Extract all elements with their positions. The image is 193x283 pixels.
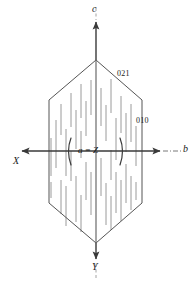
face-label-021: 021 — [117, 70, 130, 78]
axis-label-Y: Y — [92, 262, 98, 272]
crystal-striations — [51, 79, 136, 232]
axis-label-c: c — [92, 4, 96, 14]
face-label-010: 010 — [136, 117, 149, 125]
crystal-diagram-canvas — [0, 0, 193, 283]
center-label-a-equals-Z: a = Z — [78, 146, 98, 155]
crystal-diagram-figure: c Y X b 021 010 a = Z — [0, 0, 193, 283]
axis-label-b: b — [183, 144, 188, 154]
axis-label-X: X — [13, 156, 19, 166]
